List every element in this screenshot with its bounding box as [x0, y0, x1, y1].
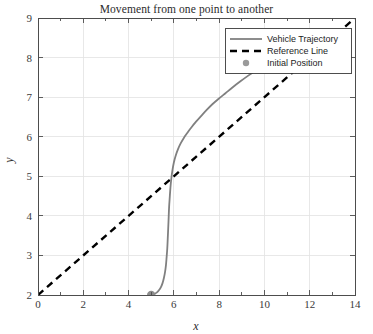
y-axis-title: y: [2, 157, 16, 164]
circle-marker-swatch: [243, 60, 249, 66]
y-tick-label: 5: [27, 170, 33, 182]
legend-label: Vehicle Trajectory: [267, 34, 339, 44]
x-tick-label: 2: [81, 298, 87, 310]
y-tick-label: 8: [27, 52, 33, 64]
x-tick-label: 4: [126, 298, 132, 310]
x-tick-label: 10: [259, 298, 271, 310]
x-tick-label: 12: [304, 298, 315, 310]
legend-label: Initial Position: [267, 58, 323, 68]
y-axis-tick-labels: 23456789: [27, 12, 33, 301]
y-tick-label: 3: [27, 249, 33, 261]
y-tick-label: 4: [27, 210, 33, 222]
x-tick-label: 8: [216, 298, 222, 310]
y-tick-label: 2: [27, 289, 33, 301]
legend-label: Reference Line: [267, 46, 328, 56]
x-axis-tick-labels: 02468101214: [35, 298, 361, 310]
y-tick-label: 7: [27, 91, 33, 103]
chart-legend[interactable]: Vehicle Trajectory Reference Line Initia…: [225, 28, 351, 73]
figure-container: Movement from one point to another 02468…: [0, 0, 373, 334]
x-tick-label: 6: [171, 298, 177, 310]
y-tick-label: 9: [27, 12, 33, 24]
x-axis-title: x: [192, 319, 199, 333]
chart-canvas: 02468101214 23456789 x y Vehicle Traject…: [0, 0, 373, 334]
x-tick-label: 14: [350, 298, 362, 310]
x-tick-label: 0: [35, 298, 41, 310]
y-tick-label: 6: [27, 131, 33, 143]
